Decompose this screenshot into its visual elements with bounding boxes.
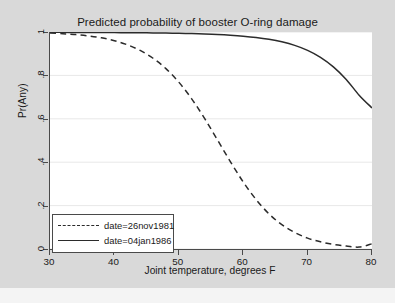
- legend-label-solid: date=04jan1986: [104, 235, 172, 246]
- y-tick-label: 1: [35, 25, 46, 39]
- x-tick-mark: [371, 250, 372, 255]
- x-tick-mark: [178, 250, 179, 255]
- x-tick-mark: [49, 250, 50, 255]
- x-tick-mark: [242, 250, 243, 255]
- y-tick-label: .6: [35, 111, 46, 125]
- chart-legend[interactable]: date=26nov1981 date=04jan1986: [52, 214, 174, 253]
- series-line-2: [50, 32, 372, 108]
- legend-item-dashed[interactable]: date=26nov1981: [58, 218, 168, 233]
- screenshot-root: Predicted probability of booster O-ring …: [0, 0, 395, 303]
- chart-title: Predicted probability of booster O-ring …: [8, 16, 387, 28]
- chart-figure: Predicted probability of booster O-ring …: [8, 6, 387, 287]
- legend-swatch-solid-icon: [58, 236, 99, 246]
- page-bottom-strip: [0, 288, 395, 303]
- legend-label-dashed: date=26nov1981: [104, 220, 174, 231]
- y-tick-label: .4: [35, 155, 46, 169]
- y-tick-label: 0: [35, 242, 46, 256]
- legend-item-solid[interactable]: date=04jan1986: [58, 233, 168, 248]
- x-tick-mark: [307, 250, 308, 255]
- y-tick-label: .2: [35, 198, 46, 212]
- y-tick-label: .8: [35, 68, 46, 82]
- legend-swatch-dashed-icon: [58, 221, 99, 231]
- x-axis-title: Joint temperature, degrees F: [49, 265, 371, 276]
